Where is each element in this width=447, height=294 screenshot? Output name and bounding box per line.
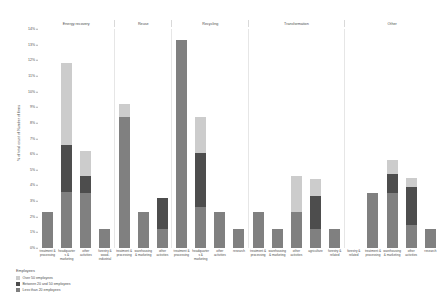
bar-segment[interactable] <box>61 145 72 192</box>
bar-slot <box>287 29 306 248</box>
x-axis-tick-label: other activities <box>211 249 229 257</box>
legend-item[interactable]: Over 50 employees <box>16 276 216 282</box>
bar-segment[interactable] <box>61 192 72 248</box>
bar-segment[interactable] <box>233 229 244 248</box>
legend-item[interactable]: Less than 20 employees <box>16 288 216 294</box>
x-axis-tick-label: forestry & related <box>326 249 344 257</box>
bar-segment[interactable] <box>214 212 225 248</box>
stacked-bar[interactable] <box>233 229 244 248</box>
stacked-bar[interactable] <box>406 178 417 248</box>
bar-slot <box>134 29 153 248</box>
bar-segment[interactable] <box>272 229 283 248</box>
stacked-bar[interactable] <box>310 179 321 248</box>
x-axis-panel: forestry & relatedtreatment & processing… <box>344 249 440 269</box>
stacked-bar[interactable] <box>253 212 264 248</box>
bar-segment[interactable] <box>310 196 321 229</box>
legend-item[interactable]: Between 20 and 50 employees <box>16 282 216 288</box>
bar-segment[interactable] <box>310 179 321 196</box>
bar-segment[interactable] <box>157 229 168 248</box>
stacked-bar[interactable] <box>119 104 130 248</box>
bar-segment[interactable] <box>119 104 130 117</box>
y-axis-tick-label: 10% <box>28 90 35 94</box>
bar-slot <box>229 29 248 248</box>
bar-slot <box>306 29 325 248</box>
stacked-bar[interactable] <box>80 151 91 248</box>
bar-slot <box>210 29 229 248</box>
bar-slot <box>421 29 440 248</box>
y-axis-tick-label: 1% <box>30 230 35 234</box>
stacked-bar[interactable] <box>42 212 53 248</box>
legend-item-list: Over 50 employeesBetween 20 and 50 emplo… <box>16 276 216 294</box>
bar-segment[interactable] <box>310 229 321 248</box>
bar-segment[interactable] <box>42 212 53 248</box>
bar-segment[interactable] <box>195 117 206 153</box>
stacked-bar[interactable] <box>367 193 378 248</box>
bar-segment[interactable] <box>367 193 378 248</box>
x-axis-tick-label: warehousing & marketing <box>134 249 152 257</box>
x-axis-tick-label: other activities <box>153 249 171 257</box>
stacked-bar[interactable] <box>176 40 187 248</box>
legend-color-swatch <box>16 276 20 280</box>
bar-slot <box>363 29 382 248</box>
bar-slot <box>344 29 363 248</box>
bar-segment[interactable] <box>406 225 417 248</box>
bar-slot <box>153 29 172 248</box>
bar-segment[interactable] <box>387 193 398 248</box>
stacked-bar[interactable] <box>291 176 302 248</box>
x-axis-tick-label: headquarters & marketing <box>192 249 210 261</box>
facet-strip-label: Energy recovery <box>63 22 90 26</box>
bar-segment[interactable] <box>80 151 91 176</box>
bar-segment[interactable] <box>176 40 187 248</box>
y-axis-tick-label: 0% <box>30 246 35 250</box>
stacked-bar[interactable] <box>138 212 149 248</box>
bar-segment[interactable] <box>425 229 436 248</box>
panel-bars <box>249 29 345 248</box>
x-axis-tick-label: warehousing & marketing <box>268 249 286 257</box>
bar-segment[interactable] <box>195 207 206 248</box>
bar-segment[interactable] <box>119 117 130 248</box>
bar-segment[interactable] <box>406 178 417 187</box>
x-axis-panel: treatment & processingheadquarters & mar… <box>38 249 115 269</box>
facet-strip-label: Transformation <box>284 22 309 26</box>
bar-segment[interactable] <box>195 153 206 208</box>
facet-strip-label: Reuse <box>138 22 149 26</box>
x-axis-tick-label: treatment & processing <box>249 249 267 257</box>
stacked-bar[interactable] <box>214 212 225 248</box>
stacked-bar[interactable] <box>61 63 72 248</box>
legend-item-label: Less than 20 employees <box>23 288 61 293</box>
bar-slot <box>383 29 402 248</box>
x-axis-panel: treatment & processingheadquarters & mar… <box>172 249 249 269</box>
bar-segment[interactable] <box>80 193 91 248</box>
bar-segment[interactable] <box>387 160 398 174</box>
x-axis-tick-label: treatment & processing <box>115 249 133 257</box>
y-axis-tick-label: 12% <box>28 58 35 62</box>
bar-segment[interactable] <box>253 212 264 248</box>
bar-slot <box>38 29 57 248</box>
stacked-bar[interactable] <box>425 229 436 248</box>
bar-segment[interactable] <box>80 176 91 193</box>
bar-segment[interactable] <box>291 212 302 248</box>
bar-segment[interactable] <box>138 212 149 248</box>
facet-panel-other <box>344 29 440 248</box>
bar-segment[interactable] <box>291 176 302 212</box>
panel-bars <box>344 29 440 248</box>
stacked-bar[interactable] <box>329 229 340 248</box>
facet-strip-row: Energy recoveryReuseRecyclingTransformat… <box>38 18 440 29</box>
stacked-bar[interactable] <box>157 198 168 248</box>
stacked-bar[interactable] <box>99 229 110 248</box>
x-axis-tick-label: forestry & related <box>345 249 363 257</box>
bar-slot <box>95 29 114 248</box>
stacked-bar[interactable] <box>272 229 283 248</box>
bar-segment[interactable] <box>406 187 417 225</box>
bar-segment[interactable] <box>99 229 110 248</box>
y-axis-tick-label: 11% <box>28 74 35 78</box>
x-axis-tick-label: treatment & processing <box>39 249 57 257</box>
bar-slot <box>268 29 287 248</box>
bar-segment[interactable] <box>387 174 398 193</box>
stacked-bar[interactable] <box>387 160 398 248</box>
bar-segment[interactable] <box>157 198 168 229</box>
stacked-bar[interactable] <box>195 117 206 248</box>
bar-segment[interactable] <box>329 229 340 248</box>
bar-segment[interactable] <box>61 63 72 144</box>
chart-container: % of total count of Number of firms Ener… <box>0 0 447 294</box>
